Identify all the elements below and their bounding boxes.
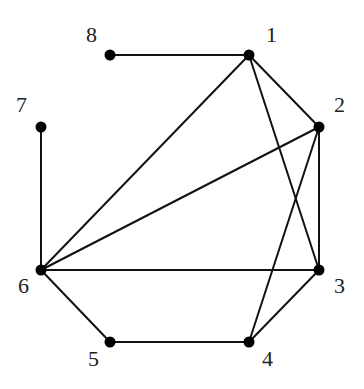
edge-1-6 xyxy=(41,55,249,270)
node-5 xyxy=(105,337,116,348)
node-6 xyxy=(36,265,47,276)
node-label-5: 5 xyxy=(88,346,99,371)
node-label-2: 2 xyxy=(334,92,345,117)
edge-6-5 xyxy=(41,270,110,342)
node-8 xyxy=(105,50,116,61)
node-label-1: 1 xyxy=(266,22,277,47)
node-4 xyxy=(244,337,255,348)
node-3 xyxy=(314,265,325,276)
edge-3-4 xyxy=(249,270,319,342)
edge-1-3 xyxy=(249,55,319,270)
edge-2-4 xyxy=(249,127,319,342)
node-label-8: 8 xyxy=(86,22,97,47)
node-label-6: 6 xyxy=(18,273,29,298)
graph-svg: 12345678 xyxy=(0,0,364,389)
node-1 xyxy=(244,50,255,61)
node-2 xyxy=(314,122,325,133)
graph-diagram: 12345678 xyxy=(0,0,364,389)
edge-1-2 xyxy=(249,55,319,127)
node-label-3: 3 xyxy=(334,273,345,298)
node-7 xyxy=(36,122,47,133)
node-label-7: 7 xyxy=(16,92,27,117)
edge-2-6 xyxy=(41,127,319,270)
node-label-4: 4 xyxy=(262,346,273,371)
edges-layer xyxy=(41,55,319,342)
